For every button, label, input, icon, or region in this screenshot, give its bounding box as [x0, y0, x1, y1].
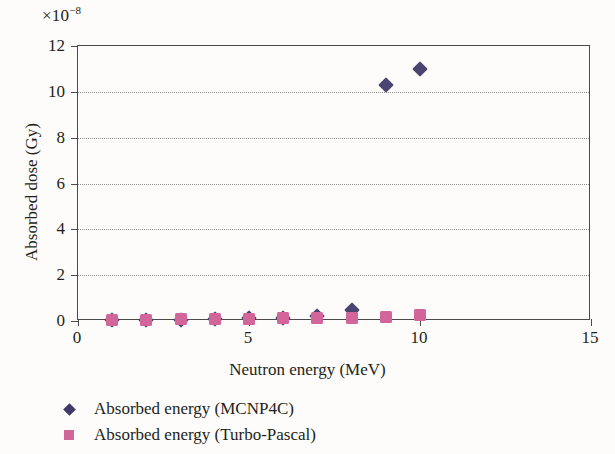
y-axis-title: Absorbed dose (Gy): [22, 62, 42, 322]
data-point-square: [346, 312, 358, 324]
legend-label: Absorbed energy (Turbo-Pascal): [94, 425, 316, 445]
y-tick-mark: [71, 46, 78, 47]
data-point-square: [277, 312, 289, 324]
y-tick-label: 12: [19, 37, 65, 54]
data-point-square: [209, 313, 221, 325]
y-tick-mark: [71, 92, 78, 93]
multiplier-exponent: −8: [69, 4, 81, 16]
legend-swatch: [56, 405, 82, 414]
x-tick-label: 0: [57, 328, 97, 348]
data-point-square: [106, 314, 118, 326]
legend-swatch: [56, 430, 82, 440]
data-point-square: [175, 313, 187, 325]
gridline: [78, 229, 589, 230]
gridline: [78, 275, 589, 276]
gridline: [78, 92, 589, 93]
data-point-diamond: [378, 77, 394, 93]
chart-page: ×10−8 024681012 051015 Neutron energy (M…: [0, 0, 615, 454]
plot-area: [77, 45, 590, 320]
gridline: [78, 138, 589, 139]
data-point-square: [311, 312, 323, 324]
gridline: [78, 184, 589, 185]
y-tick-mark: [71, 229, 78, 230]
x-tick-mark: [78, 319, 79, 326]
legend-item: Absorbed energy (Turbo-Pascal): [56, 422, 316, 448]
legend-label: Absorbed energy (MCNP4C): [94, 399, 294, 419]
data-point-diamond: [412, 61, 428, 77]
data-point-square: [414, 309, 426, 321]
data-point-square: [243, 313, 255, 325]
y-tick-mark: [71, 138, 78, 139]
square-marker: [64, 430, 74, 440]
x-axis-title: Neutron energy (MeV): [0, 360, 615, 380]
data-point-square: [380, 311, 392, 323]
y-axis-multiplier: ×10−8: [42, 4, 81, 26]
x-tick-label: 15: [570, 328, 610, 348]
legend-item: Absorbed energy (MCNP4C): [56, 396, 316, 422]
chart-legend: Absorbed energy (MCNP4C)Absorbed energy …: [56, 396, 316, 448]
y-tick-mark: [71, 321, 78, 322]
diamond-marker: [63, 403, 76, 416]
y-tick-mark: [71, 275, 78, 276]
x-tick-label: 10: [399, 328, 439, 348]
x-tick-label: 5: [228, 328, 268, 348]
y-tick-mark: [71, 184, 78, 185]
data-point-square: [140, 314, 152, 326]
x-tick-mark: [591, 319, 592, 326]
